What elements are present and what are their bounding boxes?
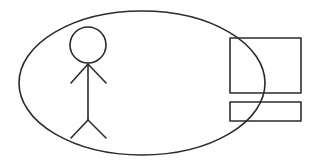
background: [0, 0, 316, 164]
diagram-canvas: [0, 0, 316, 164]
